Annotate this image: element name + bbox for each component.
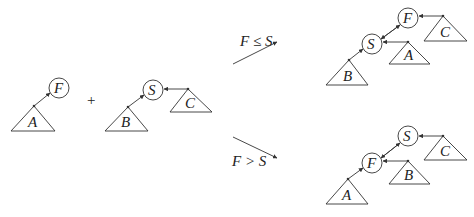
label-b: B: [343, 68, 352, 84]
edge-b-s: [128, 95, 144, 107]
label-b: B: [121, 114, 130, 130]
input-tree-f: A F: [11, 78, 69, 131]
condition-lower: F > S: [231, 153, 267, 169]
label-f: F: [53, 80, 64, 96]
label-c: C: [440, 24, 451, 40]
label-a: A: [27, 114, 38, 130]
result-upper-tree: F C S A B: [326, 8, 467, 85]
label-s: S: [148, 82, 156, 98]
label-c: C: [440, 143, 451, 159]
condition-upper: F ≤ S: [239, 33, 273, 49]
label-s: S: [367, 36, 375, 52]
edge-b-s: [349, 49, 363, 60]
label-s: S: [403, 128, 411, 144]
label-c: C: [185, 95, 196, 111]
plus-operator: +: [87, 92, 95, 108]
edge-a-f: [34, 93, 50, 106]
label-a: A: [341, 187, 352, 203]
label-f: F: [402, 10, 413, 26]
meld-diagram: A F + B S C F ≤ S F > S F C S A: [0, 0, 474, 217]
label-b: B: [404, 167, 413, 183]
input-tree-s: B S C: [105, 80, 212, 131]
result-lower-tree: S C F B A: [326, 126, 467, 204]
label-f: F: [366, 155, 377, 171]
edge-a-f: [348, 168, 363, 179]
label-a: A: [403, 47, 414, 63]
